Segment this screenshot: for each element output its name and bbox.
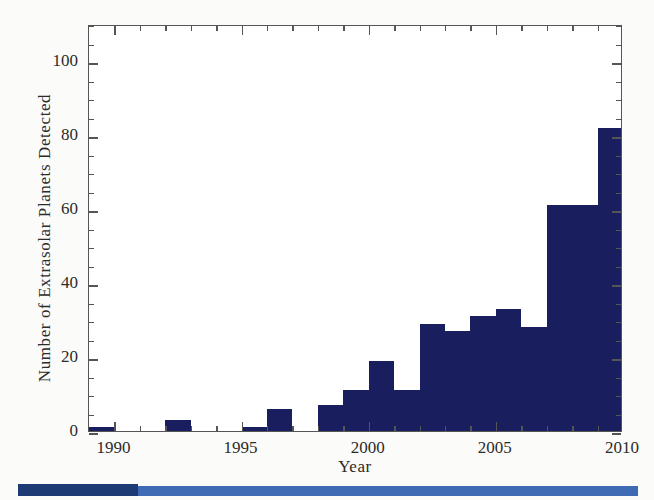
tick-mark: [470, 26, 471, 31]
tick-mark: [267, 426, 268, 431]
tick-mark: [616, 341, 621, 342]
bar: [496, 309, 521, 431]
tick-mark: [89, 100, 94, 101]
y-tick-label: 100: [12, 51, 78, 71]
tick-mark: [89, 211, 98, 213]
tick-mark: [89, 63, 98, 65]
tick-mark: [394, 26, 395, 31]
tick-mark: [267, 26, 268, 31]
y-tick-label: 40: [12, 273, 78, 293]
bar: [572, 205, 597, 431]
tick-mark: [616, 156, 621, 157]
tick-mark: [470, 426, 471, 431]
tick-mark: [318, 26, 319, 31]
tick-mark: [89, 119, 94, 120]
tick-mark: [521, 426, 522, 431]
tick-mark: [616, 396, 621, 397]
tick-mark: [343, 426, 344, 431]
x-tick-label: 1990: [78, 438, 148, 458]
tick-mark: [616, 45, 621, 46]
tick-mark: [89, 82, 94, 83]
bar: [547, 205, 572, 431]
tick-mark: [616, 119, 621, 120]
x-tick-label: 2005: [460, 438, 530, 458]
tick-mark: [616, 100, 621, 101]
bar: [318, 405, 343, 431]
tick-mark: [89, 193, 94, 194]
tick-mark: [242, 26, 244, 35]
tick-mark: [369, 26, 371, 35]
x-tick-label: 2010: [587, 438, 654, 458]
tick-mark: [114, 26, 116, 35]
bar: [470, 316, 495, 431]
tick-mark: [420, 426, 421, 431]
tick-mark: [89, 341, 94, 342]
tick-mark: [191, 426, 192, 431]
tick-mark: [89, 156, 94, 157]
tick-mark: [89, 322, 94, 323]
tick-mark: [89, 378, 94, 379]
tick-mark: [612, 211, 621, 213]
tick-mark: [616, 267, 621, 268]
tick-mark: [140, 426, 141, 431]
tick-mark: [89, 433, 98, 435]
tick-mark: [292, 26, 293, 31]
tick-mark: [140, 26, 141, 31]
tick-mark: [616, 82, 621, 83]
tick-mark: [89, 230, 94, 231]
bar: [445, 331, 470, 431]
tick-mark: [598, 426, 599, 431]
tick-mark: [89, 137, 98, 139]
tick-mark: [89, 174, 94, 175]
tick-mark: [165, 426, 166, 431]
tick-mark: [496, 26, 498, 35]
y-tick-label: 60: [12, 199, 78, 219]
tick-mark: [616, 378, 621, 379]
tick-mark: [394, 426, 395, 431]
tick-mark: [616, 304, 621, 305]
tick-mark: [572, 426, 573, 431]
tick-mark: [612, 137, 621, 139]
tick-mark: [292, 426, 293, 431]
bar-series: [89, 26, 621, 431]
tick-mark: [616, 26, 621, 27]
tick-mark: [547, 426, 548, 431]
tick-mark: [343, 26, 344, 31]
scan-band-dark: [18, 484, 138, 496]
tick-mark: [89, 285, 98, 287]
tick-mark: [242, 422, 244, 431]
tick-mark: [89, 267, 94, 268]
tick-mark: [420, 26, 421, 31]
tick-mark: [216, 26, 217, 31]
bar: [394, 390, 419, 431]
tick-mark: [89, 248, 94, 249]
bar: [420, 324, 445, 431]
tick-mark: [547, 26, 548, 31]
tick-mark: [616, 322, 621, 323]
chart-figure: Number of Extrasolar Planets Detected 02…: [0, 0, 654, 500]
tick-mark: [114, 422, 116, 431]
scan-band-light: [138, 486, 638, 496]
tick-mark: [369, 422, 371, 431]
tick-mark: [216, 426, 217, 431]
tick-mark: [191, 26, 192, 31]
scan-artifact-band: [0, 482, 654, 500]
tick-mark: [89, 26, 94, 27]
bar: [267, 409, 292, 431]
bar: [369, 361, 394, 431]
tick-mark: [616, 193, 621, 194]
tick-mark: [598, 26, 599, 31]
tick-mark: [616, 174, 621, 175]
tick-mark: [89, 304, 94, 305]
tick-mark: [572, 26, 573, 31]
bar: [343, 390, 368, 431]
tick-mark: [89, 396, 94, 397]
tick-mark: [89, 415, 94, 416]
bar: [242, 427, 267, 431]
tick-mark: [612, 285, 621, 287]
plot-area: [88, 25, 622, 432]
tick-mark: [612, 433, 621, 435]
tick-mark: [445, 426, 446, 431]
tick-mark: [318, 426, 319, 431]
tick-mark: [612, 63, 621, 65]
